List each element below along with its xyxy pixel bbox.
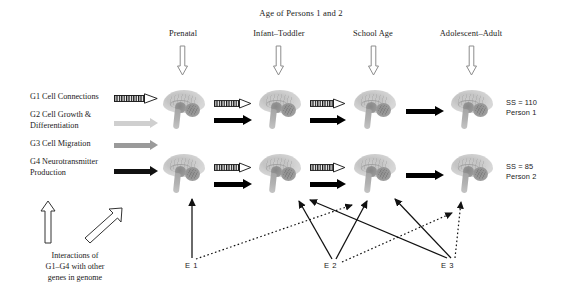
interaction-note-line2: G1–G4 with other	[5, 262, 145, 272]
person1-name: Person 1	[506, 108, 536, 117]
brain-person2-infant-toddler	[257, 152, 303, 194]
figure-title: Age of Persons 1 and 2	[181, 8, 421, 18]
brain-person2-prenatal	[161, 152, 207, 194]
gene-legend-label-g2-line1: G2 Cell Growth &	[30, 110, 91, 120]
influence-e2-dotted-to-adolescent-adult	[342, 213, 452, 262]
figure-canvas: Age of Persons 1 and 2 Prenatal Infant–T…	[0, 0, 561, 294]
stage-header-infant-toddler: Infant–Toddler	[229, 29, 329, 38]
stage-pointer-adolescent-adult	[466, 46, 477, 76]
gene-legend-label-g3: G3 Cell Migration	[30, 139, 91, 149]
transition-p2-s3-g4-arrow	[406, 171, 444, 179]
stage-header-adolescent-adult: Adolescent–Adult	[421, 29, 521, 38]
transition-p2-s1-g1-arrow	[214, 162, 252, 173]
stage-pointer-infant-toddler	[273, 46, 284, 76]
brain-person1-prenatal	[161, 88, 207, 130]
transition-p1-s1-g4-arrow	[214, 116, 252, 124]
influence-e2-to-school-age	[336, 201, 367, 259]
gene-legend-label-g1: G1 Cell Connections	[30, 92, 99, 102]
environment-label-e1: E 1	[185, 261, 198, 270]
gene-legend-arrow-g2	[114, 120, 158, 126]
brain-person1-adolescent-adult	[449, 88, 495, 130]
environment-label-e2: E 2	[324, 261, 337, 270]
transition-p1-s2-g4-arrow	[310, 116, 346, 124]
interaction-note-line3: genes in genome	[5, 273, 145, 283]
transition-p2-s1-g4-arrow	[214, 180, 252, 188]
environment-label-e3: E 3	[441, 261, 454, 270]
gene-legend-arrow-g4	[114, 168, 158, 174]
gene-legend-label-g4-line1: G4 Neurotransmitter	[30, 157, 98, 167]
transition-p2-s2-g4-arrow	[310, 180, 346, 188]
influence-e3-to-infant-toddler	[310, 200, 447, 258]
influence-e2-to-infant-toddler	[299, 201, 332, 259]
influence-e3-to-school-age	[395, 199, 451, 258]
gene-legend-arrow-g3	[114, 142, 158, 148]
stage-pointer-school-age	[368, 46, 379, 76]
influence-e1-dotted-to-school-age	[196, 205, 352, 259]
brain-person2-adolescent-adult	[449, 152, 495, 194]
brain-person1-school-age	[352, 88, 398, 130]
gene-legend-arrow-g1	[114, 95, 158, 102]
person2-score: SS = 85	[506, 162, 533, 171]
influence-e3-dotted-to-adolescent-adult	[455, 202, 461, 258]
brain-person1-infant-toddler	[257, 88, 303, 130]
gene-legend-label-g2-line2: Differentiation	[30, 121, 79, 131]
interaction-note-line1: Interactions of	[5, 251, 145, 261]
stage-header-prenatal: Prenatal	[133, 29, 233, 38]
transition-p1-s2-g1-arrow	[310, 98, 346, 109]
interaction-arrow-vertical	[40, 200, 56, 244]
transition-p1-s3-g4-arrow	[406, 107, 444, 115]
stage-pointer-prenatal	[177, 46, 188, 76]
brain-person2-school-age	[352, 152, 398, 194]
person1-score: SS = 110	[506, 98, 537, 107]
stage-header-school-age: School Age	[323, 29, 423, 38]
person2-name: Person 2	[506, 172, 536, 181]
gene-legend-label-g4-line2: Production	[30, 168, 66, 178]
transition-p2-s2-g1-arrow	[310, 162, 346, 173]
interaction-arrow-diagonal	[80, 206, 124, 246]
transition-p1-s1-g1-arrow	[214, 98, 252, 109]
